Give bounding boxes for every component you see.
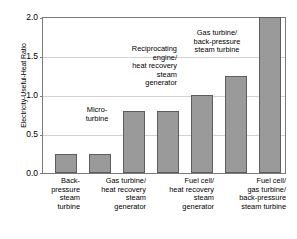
bar	[225, 76, 247, 174]
y-tick-label: 2.0	[14, 13, 38, 22]
bar	[157, 111, 179, 174]
y-axis-tick-labels: 2.0 1.5 1.0 0.5 0.0	[14, 0, 38, 239]
bar	[259, 17, 281, 173]
bar	[191, 95, 213, 173]
annotation-gas-turbine-back-pressure: Gas turbine/ back-pressure steam turbine	[178, 29, 256, 55]
x-label-fuel-cell-gas-turbine: Fuel cell/ gas turbine/ back-pressure st…	[214, 177, 286, 211]
bar	[123, 111, 145, 174]
x-label-gas-turbine-heat-recovery: Gas turbine/ heat recovery steam generat…	[82, 177, 146, 211]
x-label-back-pressure-steam-turbine: Back- pressure steam turbine	[36, 177, 80, 211]
y-tick-label: 1.5	[14, 52, 38, 61]
x-label-fuel-cell-heat-recovery: Fuel cell/ heat recovery steam generator	[150, 177, 214, 211]
y-tick-label: 0.0	[14, 169, 38, 178]
plot-area: Micro- turbine Reciprocating engine/ hea…	[42, 17, 286, 174]
bar	[89, 154, 111, 174]
x-axis-labels: Back- pressure steam turbine Gas turbine…	[42, 177, 286, 235]
annotation-reciprocating-engine: Reciprocating engine/ heat recovery stea…	[105, 45, 177, 88]
y-tick-mark	[40, 173, 43, 174]
bar-chart: Electricity-Useful-Heat Ratio 2.0 1.5 1.…	[0, 0, 297, 239]
y-tick-label: 0.5	[14, 130, 38, 139]
bar	[55, 154, 77, 174]
annotation-microturbine: Micro- turbine	[71, 106, 123, 123]
y-tick-label: 1.0	[14, 91, 38, 100]
